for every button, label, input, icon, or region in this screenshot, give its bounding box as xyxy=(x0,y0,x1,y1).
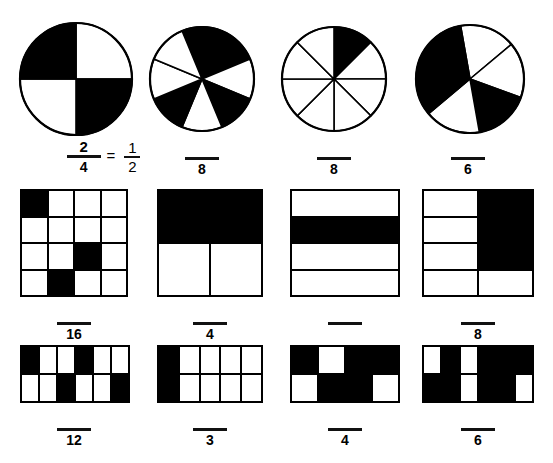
grid-cell-empty[interactable] xyxy=(102,271,127,296)
numerator-blank[interactable] xyxy=(191,141,213,156)
grid-cell-shaded[interactable] xyxy=(76,347,92,373)
grid-cell-empty[interactable] xyxy=(211,244,261,295)
shape-circle-2[interactable] xyxy=(147,24,257,134)
grid-cell-shaded[interactable] xyxy=(479,347,495,373)
fraction-circle-1[interactable]: 24=12 xyxy=(45,139,165,174)
grid-cell-empty[interactable] xyxy=(22,271,47,296)
fraction-grid-6[interactable]: 3 xyxy=(170,412,250,447)
grid-cell-empty[interactable] xyxy=(242,347,261,373)
numerator-blank[interactable] xyxy=(199,306,221,321)
denominator[interactable]: 8 xyxy=(323,161,345,176)
grid-cell-empty[interactable] xyxy=(76,375,92,401)
grid-cell-shaded[interactable] xyxy=(479,191,532,216)
grid-cell-shaded[interactable] xyxy=(479,244,532,269)
grid-cell-shaded[interactable] xyxy=(497,347,513,373)
fraction-circle-3[interactable]: 8 xyxy=(294,141,374,176)
fraction-grid-2[interactable]: 4 xyxy=(170,306,250,341)
grid-cell-empty[interactable] xyxy=(112,347,128,373)
shape-grid-5[interactable] xyxy=(20,345,130,403)
denominator[interactable]: 3 xyxy=(199,432,221,447)
grid-cell-shaded[interactable] xyxy=(516,347,532,373)
grid-cell-empty[interactable] xyxy=(40,375,56,401)
fraction-circle-2[interactable]: 8 xyxy=(162,141,242,176)
denominator[interactable]: 16 xyxy=(63,326,85,341)
grid-cell-empty[interactable] xyxy=(22,218,47,243)
grid-cell-shaded[interactable] xyxy=(319,375,344,401)
grid-cell-empty[interactable] xyxy=(424,191,477,216)
grid-cell-empty[interactable] xyxy=(22,375,38,401)
grid-cell-shaded[interactable] xyxy=(75,244,100,269)
numerator-blank[interactable] xyxy=(334,412,356,427)
grid-cell-shaded[interactable] xyxy=(497,375,513,401)
shape-grid-6[interactable] xyxy=(157,345,263,403)
grid-cell-empty[interactable] xyxy=(180,375,199,401)
grid-cell-shaded[interactable] xyxy=(22,347,38,373)
denominator[interactable]: 8 xyxy=(467,326,489,341)
numerator-blank[interactable] xyxy=(467,306,489,321)
grid-cell-shaded[interactable] xyxy=(49,271,74,296)
shape-circle-4[interactable] xyxy=(413,22,527,136)
grid-cell-empty[interactable] xyxy=(75,218,100,243)
denominator[interactable]: 8 xyxy=(191,161,213,176)
grid-cell-shaded[interactable] xyxy=(424,375,440,401)
grid-cell-empty[interactable] xyxy=(516,375,532,401)
grid-cell-empty[interactable] xyxy=(58,347,74,373)
grid-cell-empty[interactable] xyxy=(49,218,74,243)
grid-cell-empty[interactable] xyxy=(75,271,100,296)
grid-cell-empty[interactable] xyxy=(221,375,240,401)
denominator[interactable]: 12 xyxy=(63,432,85,447)
grid-cell-empty[interactable] xyxy=(424,271,477,296)
grid-cell-shaded[interactable] xyxy=(442,375,458,401)
shape-circle-1[interactable] xyxy=(17,20,135,138)
grid-cell-shaded[interactable] xyxy=(479,218,532,243)
shape-grid-7[interactable] xyxy=(290,345,400,403)
numerator-blank[interactable] xyxy=(199,412,221,427)
grid-cell-empty[interactable] xyxy=(479,271,532,296)
grid-cell-empty[interactable] xyxy=(40,347,56,373)
shape-grid-3[interactable] xyxy=(290,189,400,297)
grid-cell-empty[interactable] xyxy=(292,244,398,269)
grid-cell-shaded[interactable] xyxy=(211,191,261,242)
numerator-blank[interactable] xyxy=(334,306,356,321)
grid-cell-empty[interactable] xyxy=(373,375,398,401)
grid-cell-empty[interactable] xyxy=(461,347,477,373)
grid-cell-empty[interactable] xyxy=(319,347,344,373)
grid-cell-empty[interactable] xyxy=(102,244,127,269)
numerator-blank[interactable] xyxy=(323,141,345,156)
grid-cell-empty[interactable] xyxy=(221,347,240,373)
grid-cell-empty[interactable] xyxy=(292,191,398,216)
grid-cell-empty[interactable] xyxy=(49,244,74,269)
grid-cell-empty[interactable] xyxy=(292,375,317,401)
shape-grid-4[interactable] xyxy=(422,189,534,297)
grid-cell-empty[interactable] xyxy=(424,218,477,243)
grid-cell-shaded[interactable] xyxy=(159,347,178,373)
grid-cell-shaded[interactable] xyxy=(292,218,398,243)
grid-cell-shaded[interactable] xyxy=(479,375,495,401)
numerator-blank[interactable] xyxy=(467,412,489,427)
grid-cell-empty[interactable] xyxy=(102,191,127,216)
grid-cell-empty[interactable] xyxy=(94,375,110,401)
shape-circle-3[interactable] xyxy=(279,24,389,134)
grid-cell-shaded[interactable] xyxy=(346,347,371,373)
denominator[interactable]: 4 xyxy=(199,326,221,341)
grid-cell-empty[interactable] xyxy=(201,375,220,401)
shape-grid-8[interactable] xyxy=(422,345,534,403)
fraction-grid-3[interactable] xyxy=(305,306,385,341)
grid-cell-shaded[interactable] xyxy=(442,347,458,373)
fraction-grid-4[interactable]: 8 xyxy=(438,306,518,341)
grid-cell-shaded[interactable] xyxy=(159,191,209,242)
fraction-grid-8[interactable]: 6 xyxy=(438,412,518,447)
fraction-grid-1[interactable]: 16 xyxy=(34,306,114,341)
grid-cell-shaded[interactable] xyxy=(112,375,128,401)
fraction-circle-4[interactable]: 6 xyxy=(428,141,508,176)
numerator-blank[interactable] xyxy=(63,412,85,427)
numerator-blank[interactable] xyxy=(63,306,85,321)
grid-cell-empty[interactable] xyxy=(424,244,477,269)
grid-cell-shaded[interactable] xyxy=(346,375,371,401)
grid-cell-shaded[interactable] xyxy=(159,375,178,401)
grid-cell-empty[interactable] xyxy=(424,347,440,373)
grid-cell-shaded[interactable] xyxy=(292,347,317,373)
shape-grid-1[interactable] xyxy=(20,189,128,297)
grid-cell-empty[interactable] xyxy=(180,347,199,373)
denominator[interactable]: 6 xyxy=(457,161,479,176)
